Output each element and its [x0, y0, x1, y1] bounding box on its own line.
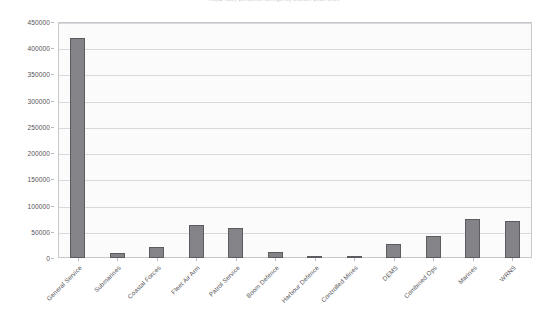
x-tick-mark [78, 258, 79, 261]
y-tick-mark [51, 74, 54, 75]
bar[interactable] [228, 228, 243, 258]
y-tick-label: 250000 [27, 123, 50, 130]
y-tick-mark [51, 48, 54, 49]
bar[interactable] [386, 244, 401, 258]
y-tick-label: 350000 [27, 71, 50, 78]
x-tick-mark [196, 258, 197, 261]
y-tick-mark [51, 258, 54, 259]
x-tick-mark [433, 258, 434, 261]
x-tick-mark [117, 258, 118, 261]
y-tick-label: 200000 [27, 150, 50, 157]
y-tick-mark [51, 232, 54, 233]
y-tick-mark [51, 101, 54, 102]
x-tick-mark [473, 258, 474, 261]
x-tick-mark [236, 258, 237, 261]
x-tick-mark [157, 258, 158, 261]
y-tick-label: 50000 [31, 228, 50, 235]
bar[interactable] [465, 219, 480, 258]
bar[interactable] [189, 225, 204, 258]
y-tick-mark [51, 206, 54, 207]
bar[interactable] [426, 236, 441, 258]
y-tick-mark [51, 22, 54, 23]
y-tick-mark [51, 153, 54, 154]
y-tick-mark [51, 127, 54, 128]
x-tick-mark [275, 258, 276, 261]
bar-chart-figure: Royal Navy personnel strength by branch,… [0, 0, 549, 322]
y-tick-label: 100000 [27, 202, 50, 209]
y-tick-label: 150000 [27, 176, 50, 183]
x-tick-mark [354, 258, 355, 261]
bar[interactable] [149, 247, 164, 258]
y-tick-mark [51, 179, 54, 180]
chart-title: Royal Navy personnel strength by branch,… [0, 0, 549, 2]
y-tick-label: 450000 [27, 19, 50, 26]
y-tick-label: 400000 [27, 45, 50, 52]
y-tick-label: 300000 [27, 97, 50, 104]
bars-layer [58, 22, 532, 258]
x-axis: General ServiceSubmarinesCoastal ForcesF… [58, 258, 532, 322]
y-tick-label: 0 [46, 255, 50, 262]
x-tick-mark [512, 258, 513, 261]
bar[interactable] [505, 221, 520, 258]
y-axis: 0500001000001500002000002500003000003500… [0, 22, 54, 258]
bar[interactable] [70, 38, 85, 258]
x-tick-mark [394, 258, 395, 261]
x-tick-mark [315, 258, 316, 261]
